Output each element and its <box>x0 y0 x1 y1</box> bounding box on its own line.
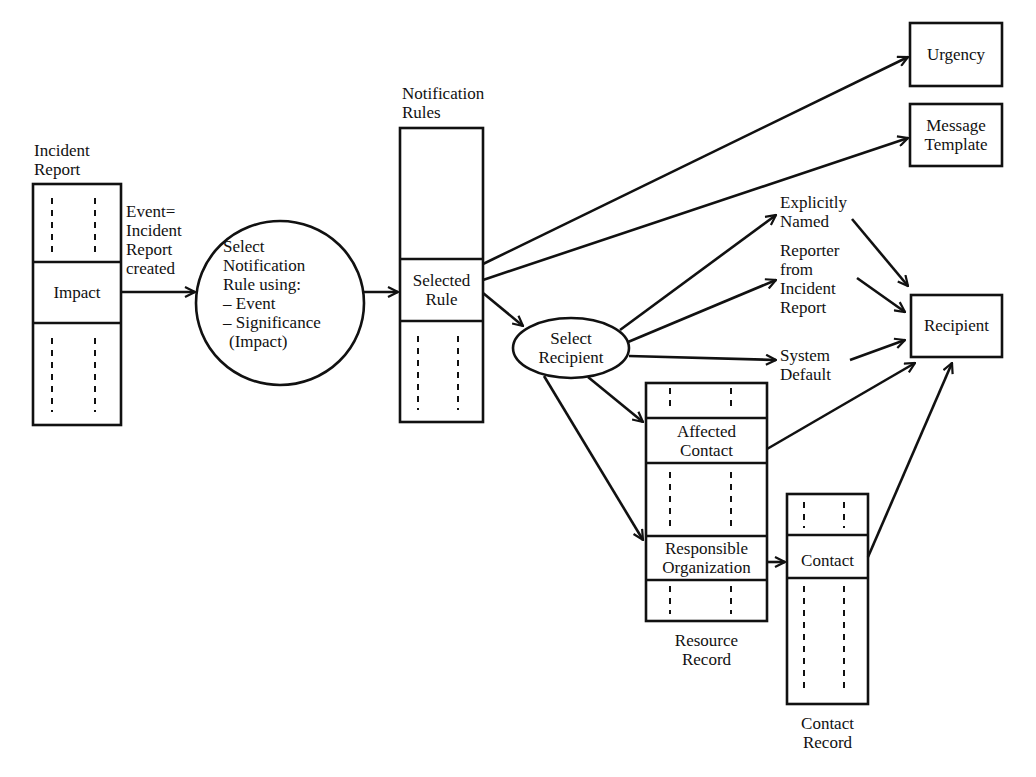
incident-report-table <box>33 184 121 425</box>
selected-rule-field: SelectedRule <box>400 271 483 309</box>
select-recipient-text: SelectRecipient <box>513 329 629 367</box>
contact-field: Contact <box>787 551 868 570</box>
incident-report-title: IncidentReport <box>34 141 90 179</box>
diagram-canvas <box>0 0 1036 777</box>
responsible-organization-field: ResponsibleOrganization <box>646 539 767 577</box>
message-template-label: MessageTemplate <box>910 116 1002 154</box>
recipient-label: Recipient <box>911 316 1002 335</box>
urgency-label: Urgency <box>910 45 1002 64</box>
contact-record-table <box>787 494 868 704</box>
system-default-label: SystemDefault <box>780 346 831 384</box>
impact-field: Impact <box>33 283 121 302</box>
event-label: Event=IncidentReportcreated <box>126 202 182 278</box>
resource-record-title: ResourceRecord <box>646 631 767 669</box>
notification-rules-title: NotificationRules <box>402 84 484 122</box>
select-rule-text: SelectNotificationRule using: – Event– S… <box>223 237 321 351</box>
explicitly-named-label: ExplicitlyNamed <box>780 193 847 231</box>
affected-contact-field: AffectedContact <box>646 422 767 460</box>
contact-record-title: ContactRecord <box>780 714 875 752</box>
reporter-label: Reporterfrom IncidentReport <box>780 241 839 317</box>
